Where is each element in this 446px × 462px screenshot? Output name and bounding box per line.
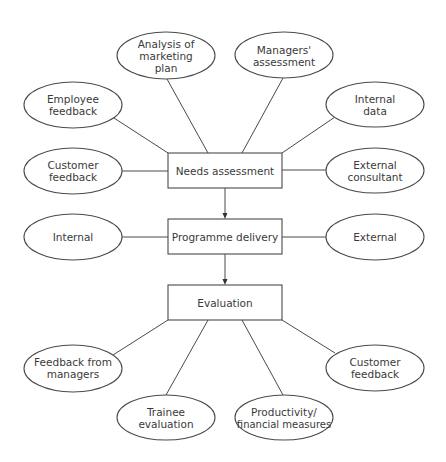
ellipse-label: Productivity/: [251, 406, 317, 418]
ellipse-employee-feedback: Employee feedback: [24, 82, 122, 128]
ellipse-label: Analysis of: [138, 38, 195, 50]
ellipse-label: External: [353, 159, 397, 171]
ellipse-label: feedback: [49, 171, 98, 183]
connector-analysis-marketing: [167, 79, 208, 153]
ellipse-customer-feedback-bottom: Customer feedback: [326, 345, 424, 391]
box-label: Programme delivery: [172, 231, 279, 243]
connector-employee-feedback: [114, 118, 168, 153]
box-needs-assessment: Needs assessment: [168, 153, 282, 188]
ellipse-label: Customer: [349, 356, 401, 368]
connector-feedback-managers: [113, 320, 168, 355]
ellipse-customer-feedback-top: Customer feedback: [24, 148, 122, 194]
ellipse-label: marketing: [139, 50, 193, 62]
ellipse-trainee-evaluation: Trainee evaluation: [117, 395, 215, 440]
ellipse-label: External: [353, 231, 397, 243]
connector-customer-feedback-bottom: [282, 320, 335, 353]
ellipse-label: Internal: [53, 231, 93, 243]
ellipse-analysis-marketing: Analysis of marketing plan: [117, 32, 215, 79]
ellipse-external-consultant: External consultant: [326, 148, 424, 193]
ellipse-label: feedback: [351, 368, 400, 380]
ellipse-feedback-managers: Feedback from managers: [24, 345, 122, 392]
ellipse-internal: Internal: [24, 214, 122, 260]
ellipse-label: Managers': [257, 44, 311, 56]
ellipse-label: plan: [155, 62, 178, 74]
ellipse-label: Employee: [47, 93, 99, 105]
ellipse-label: data: [363, 105, 387, 117]
ellipse-label: financial measures: [237, 419, 331, 430]
arrowhead-icon: [223, 279, 228, 285]
connector-managers-assessment: [242, 78, 283, 153]
training-process-diagram: Needs assessment Programme delivery Eval…: [0, 0, 446, 462]
ellipse-label: Internal: [355, 93, 395, 105]
ellipse-external: External: [326, 214, 424, 260]
ellipse-label: Feedback from: [34, 356, 112, 368]
connector-internal-data: [282, 117, 335, 153]
box-label: Needs assessment: [176, 165, 274, 177]
ellipse-label: Trainee: [146, 406, 185, 418]
ellipse-label: Customer: [47, 159, 99, 171]
ellipse-label: feedback: [49, 105, 98, 117]
box-evaluation: Evaluation: [168, 285, 282, 320]
box-programme-delivery: Programme delivery: [168, 219, 282, 254]
ellipse-productivity-financial: Productivity/ financial measures: [235, 395, 333, 440]
evaluation-connectors: [113, 320, 335, 395]
ellipse-label: consultant: [347, 171, 402, 183]
ellipse-label: evaluation: [138, 418, 193, 430]
connector-trainee-evaluation: [166, 320, 208, 395]
connector-productivity: [242, 320, 283, 395]
arrowhead-icon: [223, 213, 228, 219]
box-label: Evaluation: [197, 297, 252, 309]
ellipse-label: managers: [47, 368, 100, 380]
ellipse-internal-data: Internal data: [326, 82, 424, 127]
ellipse-managers-assessment: Managers' assessment: [235, 32, 333, 78]
ellipse-label: assessment: [253, 56, 315, 68]
